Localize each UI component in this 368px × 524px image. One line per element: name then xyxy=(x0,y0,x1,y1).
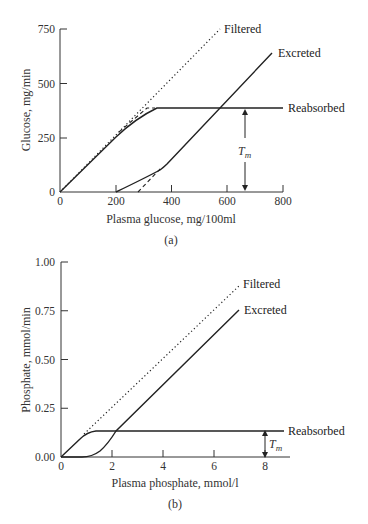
tm-arrow-a: Tm xyxy=(238,112,252,188)
y-tick-1.00: 1.00 xyxy=(35,256,55,268)
y-tick-0.50: 0.50 xyxy=(35,354,55,366)
tm-label-b: Tm xyxy=(269,437,283,453)
y-tick-500: 500 xyxy=(38,78,56,90)
y-axis-title: Glucose, mg/min xyxy=(19,69,33,152)
tm-label-a: Tm xyxy=(238,144,252,160)
y-tick-0.25: 0.25 xyxy=(35,402,55,414)
y-tick-0.00: 0.00 xyxy=(35,451,55,463)
panel-label-a: (a) xyxy=(164,233,177,247)
filtered-line-b xyxy=(84,285,240,434)
panel-label-b: (b) xyxy=(168,497,182,511)
x-tick-400: 400 xyxy=(163,195,181,207)
tm-arrow-b: Tm xyxy=(265,433,283,455)
figure: 750 500 250 0 0 200 400 600 800 Plasma g… xyxy=(0,0,368,524)
chart-a: 750 500 250 0 0 200 400 600 800 Plasma g… xyxy=(19,22,345,247)
x-tick-200: 200 xyxy=(107,195,125,207)
chart-b: 1.00 0.75 0.50 0.25 0.00 0 2 4 6 8 Plasm… xyxy=(19,256,345,511)
x-tick-2: 2 xyxy=(109,460,115,472)
reabsorbed-label: Reabsorbed xyxy=(288,101,345,115)
x-tick-0: 0 xyxy=(57,195,63,207)
reabsorbed-line-b xyxy=(61,431,284,457)
x-axis-title: Plasma glucose, mg/100ml xyxy=(106,212,236,226)
filtered-label-b: Filtered xyxy=(243,277,280,291)
x-tick-0: 0 xyxy=(58,460,64,472)
excreted-line-b xyxy=(61,310,239,457)
chart-a-axes xyxy=(60,29,283,192)
x-tick-8: 8 xyxy=(262,460,268,472)
x-tick-600: 600 xyxy=(218,195,236,207)
excreted-label-b: Excreted xyxy=(244,303,287,317)
x-axis-title-b: Plasma phosphate, mmol/l xyxy=(112,476,240,490)
y-tick-750: 750 xyxy=(38,23,56,35)
excreted-label: Excreted xyxy=(278,46,321,60)
x-tick-800: 800 xyxy=(274,195,292,207)
filtered-label: Filtered xyxy=(224,22,261,36)
y-tick-250: 250 xyxy=(38,132,56,144)
y-axis-title-b: Phosphate, mmol/min xyxy=(19,307,33,412)
y-tick-0: 0 xyxy=(49,186,55,198)
chart-b-axes xyxy=(61,262,290,457)
x-tick-6: 6 xyxy=(211,460,217,472)
excreted-line xyxy=(116,53,272,192)
x-tick-4: 4 xyxy=(160,460,166,472)
y-tick-0.75: 0.75 xyxy=(35,305,55,317)
reabsorbed-label-b: Reabsorbed xyxy=(288,424,345,438)
